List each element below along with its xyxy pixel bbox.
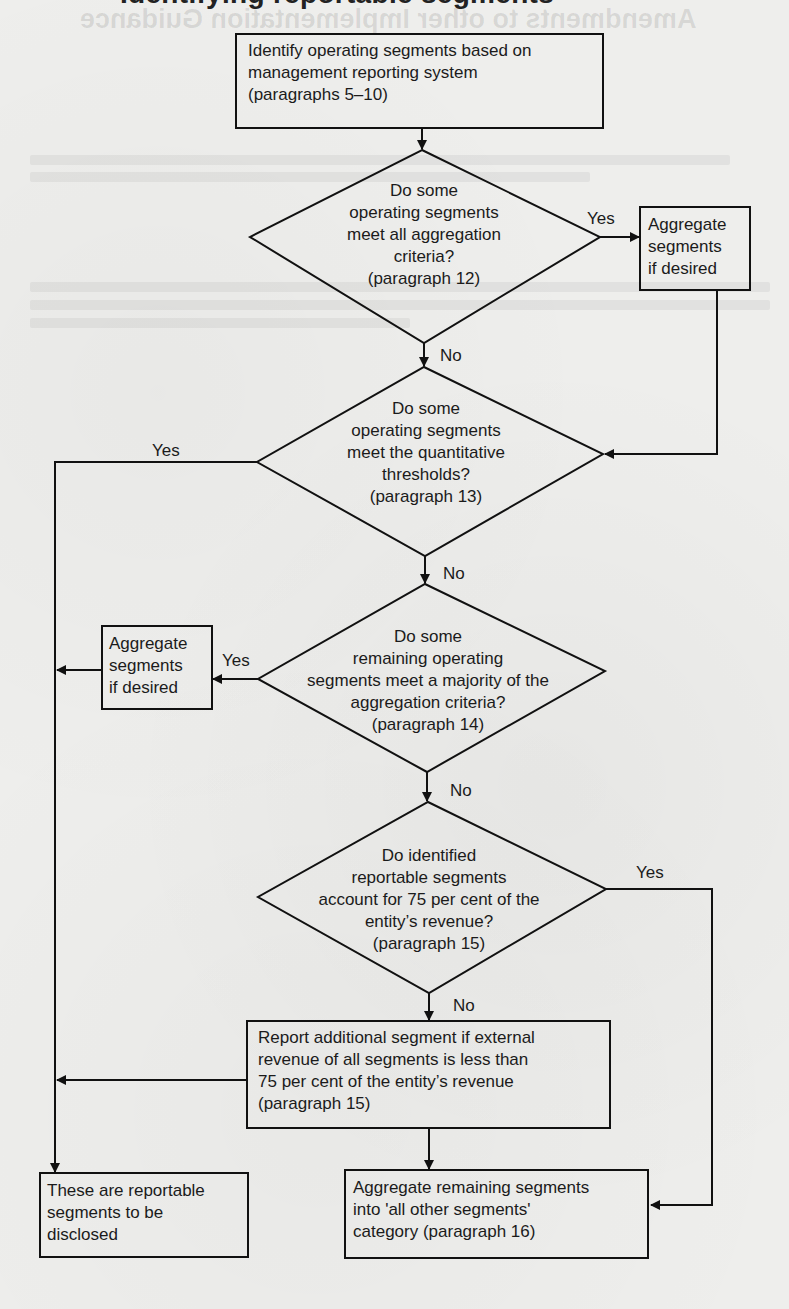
decision-line: (paragraph 15)	[318, 933, 539, 955]
connector-d2-yes	[55, 462, 257, 1172]
decision-line: (paragraph 12)	[347, 268, 501, 290]
decision-1-text: Do some operating segments meet all aggr…	[347, 180, 501, 290]
decision-2-no-label: No	[443, 563, 465, 585]
report-line: Report additional segment if external	[258, 1027, 535, 1049]
reportable-line: segments to be	[47, 1202, 205, 1224]
decision-line: Do some	[347, 398, 505, 420]
all-other-text: Aggregate remaining segments into 'all o…	[353, 1177, 589, 1243]
aggregate-left-text: Aggregate segments if desired	[109, 633, 187, 699]
decision-2-text: Do some operating segments meet the quan…	[347, 398, 505, 508]
decision-line: meet the quantitative	[347, 442, 505, 464]
decision-3-no-label: No	[450, 780, 472, 802]
report-additional-text: Report additional segment if external re…	[258, 1027, 535, 1115]
decision-line: entity’s revenue?	[318, 911, 539, 933]
start-line: (paragraphs 5–10)	[248, 84, 532, 106]
start-box-text: Identify operating segments based on man…	[248, 40, 532, 106]
decision-2-yes-label: Yes	[152, 440, 180, 462]
decision-line: (paragraph 13)	[347, 486, 505, 508]
decision-4-text: Do identified reportable segments accoun…	[318, 845, 539, 955]
aggregate-line: segments	[109, 655, 187, 677]
start-line: management reporting system	[248, 62, 532, 84]
decision-line: account for 75 per cent of the	[318, 889, 539, 911]
aggregate-line: if desired	[109, 677, 187, 699]
decision-line: Do some	[347, 180, 501, 202]
aggregate-line: Aggregate	[648, 214, 726, 236]
decision-line: aggregation criteria?	[307, 692, 549, 714]
reportable-line: These are reportable	[47, 1180, 205, 1202]
all-other-line: into 'all other segments'	[353, 1199, 589, 1221]
reportable-line: disclosed	[47, 1224, 205, 1246]
decision-3-yes-label: Yes	[222, 650, 250, 672]
aggregate-line: Aggregate	[109, 633, 187, 655]
decision-line: criteria?	[347, 246, 501, 268]
decision-3-text: Do some remaining operating segments mee…	[307, 626, 549, 736]
decision-line: operating segments	[347, 420, 505, 442]
decision-line: Do some	[307, 626, 549, 648]
report-line: revenue of all segments is less than	[258, 1049, 535, 1071]
aggregate-right-text: Aggregate segments if desired	[648, 214, 726, 280]
report-line: (paragraph 15)	[258, 1093, 535, 1115]
decision-line: (paragraph 14)	[307, 714, 549, 736]
decision-4-no-label: No	[453, 995, 475, 1017]
decision-line: Do identified	[318, 845, 539, 867]
decision-line: segments meet a majority of the	[307, 670, 549, 692]
report-line: 75 per cent of the entity’s revenue	[258, 1071, 535, 1093]
all-other-line: category (paragraph 16)	[353, 1221, 589, 1243]
decision-1-yes-label: Yes	[587, 208, 615, 230]
all-other-line: Aggregate remaining segments	[353, 1177, 589, 1199]
connector-d4-yes	[606, 889, 712, 1205]
decision-line: thresholds?	[347, 464, 505, 486]
decision-4-yes-label: Yes	[636, 862, 664, 884]
decision-line: reportable segments	[318, 867, 539, 889]
aggregate-line: segments	[648, 236, 726, 258]
connector-aggregate-right-d2	[605, 290, 717, 454]
decision-line: remaining operating	[307, 648, 549, 670]
aggregate-line: if desired	[648, 258, 726, 280]
reportable-text: These are reportable segments to be disc…	[47, 1180, 205, 1246]
start-line: Identify operating segments based on	[248, 40, 532, 62]
decision-line: meet all aggregation	[347, 224, 501, 246]
decision-1-no-label: No	[440, 345, 462, 367]
decision-line: operating segments	[347, 202, 501, 224]
